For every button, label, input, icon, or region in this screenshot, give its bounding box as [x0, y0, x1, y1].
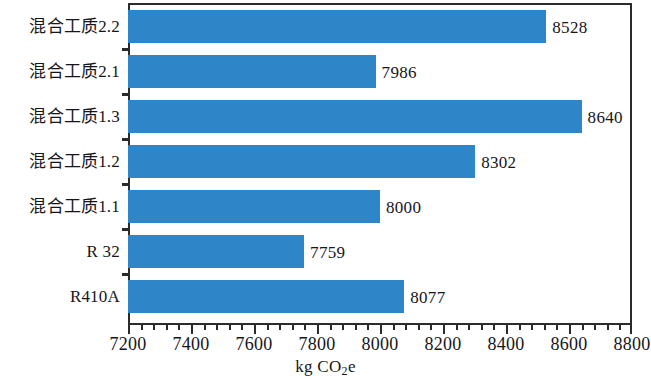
value-axis-minor-tick	[468, 325, 470, 330]
bar	[128, 235, 304, 268]
value-axis-minor-tick	[367, 325, 369, 330]
value-axis-tick-label: 8600	[550, 334, 587, 354]
value-axis-tick-label: 8200	[424, 334, 461, 354]
value-axis-title: kg CO2e	[0, 357, 651, 381]
value-axis-major-tick	[569, 325, 571, 334]
value-axis-major-tick	[128, 325, 130, 334]
bar	[128, 100, 582, 133]
bar-value-label: 8000	[386, 199, 421, 216]
bar	[128, 190, 380, 223]
value-axis-major-tick	[317, 325, 319, 334]
value-axis-minor-tick	[355, 325, 357, 330]
value-axis-minor-tick	[330, 325, 332, 330]
value-axis-minor-tick	[493, 325, 495, 330]
value-axis-major-tick	[506, 325, 508, 334]
value-axis-minor-tick	[229, 325, 231, 330]
value-axis-minor-tick	[456, 325, 458, 330]
value-axis-minor-tick	[430, 325, 432, 330]
bar	[128, 280, 404, 313]
value-axis-minor-tick	[241, 325, 243, 330]
value-axis-major-tick	[380, 325, 382, 334]
value-axis-minor-tick	[279, 325, 281, 330]
value-axis-minor-tick	[204, 325, 206, 330]
value-axis-minor-tick	[556, 325, 558, 330]
value-axis-tick-label: 7400	[172, 334, 209, 354]
category-label: R 32	[87, 242, 120, 261]
value-axis-minor-tick	[178, 325, 180, 330]
value-axis-minor-tick	[607, 325, 609, 330]
bar-value-label: 8640	[588, 109, 623, 126]
value-axis-minor-tick	[594, 325, 596, 330]
bars-layer: 8528798686408302800077598077	[128, 3, 632, 325]
value-axis-major-tick	[630, 325, 632, 334]
value-axis-minor-tick	[619, 325, 621, 330]
bar-value-label: 7986	[382, 64, 417, 81]
axis-title-suffix: e	[348, 357, 356, 376]
bar-chart: 混合工质2.2混合工质2.1混合工质1.3混合工质1.2混合工质1.1R 32R…	[0, 0, 651, 382]
bar-value-label: 7759	[310, 244, 345, 261]
value-axis-major-tick	[443, 325, 445, 334]
value-axis-tick-label: 7600	[235, 334, 272, 354]
value-axis-minor-tick	[418, 325, 420, 330]
bar	[128, 55, 376, 88]
bar	[128, 145, 475, 178]
bar-value-label: 8302	[481, 154, 516, 171]
value-axis-tick-label: 7800	[298, 334, 335, 354]
value-axis-minor-tick	[544, 325, 546, 330]
bar-value-label: 8077	[410, 289, 445, 306]
category-label: 混合工质2.1	[29, 62, 120, 81]
category-axis-labels: 混合工质2.2混合工质2.1混合工质1.3混合工质1.2混合工质1.1R 32R…	[0, 0, 124, 325]
value-axis-minor-tick	[141, 325, 143, 330]
value-axis-minor-tick	[405, 325, 407, 330]
category-label: R410A	[70, 287, 120, 306]
value-axis-minor-tick	[267, 325, 269, 330]
axis-title-prefix: kg CO	[295, 357, 341, 376]
value-axis-tick-label: 8800	[613, 334, 650, 354]
value-axis-minor-tick	[481, 325, 483, 330]
value-axis-minor-tick	[582, 325, 584, 330]
value-axis-tick-label: 7200	[109, 334, 146, 354]
value-axis-major-tick	[254, 325, 256, 334]
value-axis-minor-tick	[531, 325, 533, 330]
value-axis-major-tick	[191, 325, 193, 334]
value-axis-minor-tick	[519, 325, 521, 330]
category-label: 混合工质1.2	[29, 152, 120, 171]
value-axis-minor-tick	[304, 325, 306, 330]
value-axis-tick-label: 8400	[487, 334, 524, 354]
bar-value-label: 8528	[552, 19, 587, 36]
value-axis-tick-label: 8000	[361, 334, 398, 354]
value-axis-minor-tick	[153, 325, 155, 330]
category-label: 混合工质2.2	[29, 17, 120, 36]
value-axis-minor-tick	[292, 325, 294, 330]
category-label: 混合工质1.3	[29, 107, 120, 126]
value-axis-minor-tick	[342, 325, 344, 330]
category-label: 混合工质1.1	[29, 197, 120, 216]
value-axis-minor-tick	[166, 325, 168, 330]
value-axis-minor-tick	[216, 325, 218, 330]
value-axis-minor-tick	[393, 325, 395, 330]
bar	[128, 10, 546, 43]
